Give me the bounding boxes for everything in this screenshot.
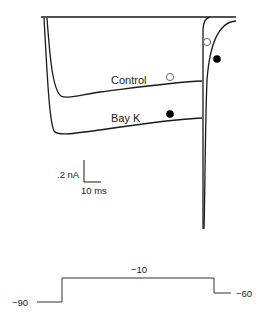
- return-potential-label: −60: [236, 288, 252, 299]
- time-scale-label: 10 ms: [81, 185, 107, 196]
- bayk-tail-current: [204, 21, 236, 229]
- control-label: Control: [111, 74, 146, 86]
- current-trace-figure: Control Bay K .2 nA 10 ms −90 −10 −60: [0, 0, 258, 313]
- step-potential-label: −10: [131, 264, 147, 275]
- holding-potential-label: −90: [12, 297, 28, 308]
- voltage-protocol-trace: [37, 278, 231, 302]
- bayk-label: Bay K: [111, 112, 141, 124]
- control-tail-open-circle-marker: [203, 38, 210, 45]
- control-open-circle-marker: [166, 73, 173, 80]
- current-scale-label: .2 nA: [57, 169, 80, 180]
- bayk-tail-filled-circle-marker: [213, 55, 221, 63]
- bayk-filled-circle-marker: [166, 110, 174, 118]
